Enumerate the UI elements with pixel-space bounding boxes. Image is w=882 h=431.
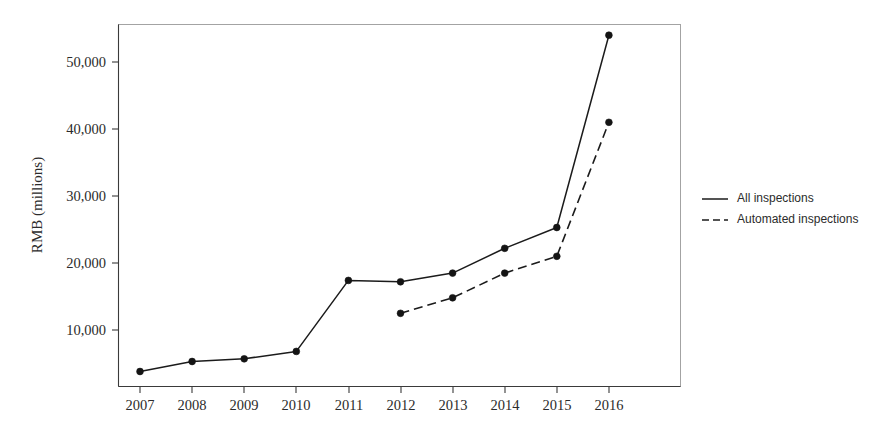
data-point[interactable] xyxy=(501,270,508,277)
y-tick-label-10000: 10,000 xyxy=(66,322,106,338)
x-tick-label-2010: 2010 xyxy=(282,397,311,413)
data-series-layer xyxy=(137,32,613,375)
data-point[interactable] xyxy=(606,119,613,126)
data-point[interactable] xyxy=(241,355,248,362)
x-tick-label-2009: 2009 xyxy=(230,397,259,413)
y-axis-title: RMB (millions) xyxy=(29,157,46,253)
series-line-all-inspections xyxy=(140,35,609,371)
x-tick-label-2014: 2014 xyxy=(491,397,521,413)
y-tick-label-30000: 30,000 xyxy=(66,188,106,204)
plot-area-frame xyxy=(119,25,681,387)
x-tick-label-2012: 2012 xyxy=(387,397,416,413)
data-point[interactable] xyxy=(397,310,404,317)
line-chart: 10,000 20,000 30,000 40,000 50,000 RMB (… xyxy=(0,0,882,431)
chart-figure: 10,000 20,000 30,000 40,000 50,000 RMB (… xyxy=(0,0,882,431)
data-point[interactable] xyxy=(553,224,560,231)
x-tick-label-2013: 2013 xyxy=(439,397,468,413)
y-tick-label-40000: 40,000 xyxy=(66,121,106,137)
legend-label-automated-inspections: Automated inspections xyxy=(737,212,858,226)
data-point[interactable] xyxy=(397,278,404,285)
x-tick-label-2016: 2016 xyxy=(595,397,624,413)
chart-legend: All inspections Automated inspections xyxy=(702,191,858,226)
data-point[interactable] xyxy=(449,270,456,277)
x-tick-label-2007: 2007 xyxy=(126,397,155,413)
y-tick-label-20000: 20,000 xyxy=(66,255,106,271)
data-point[interactable] xyxy=(449,294,456,301)
data-point[interactable] xyxy=(553,253,560,260)
data-point[interactable] xyxy=(137,368,144,375)
legend-label-all-inspections: All inspections xyxy=(737,191,814,205)
data-point[interactable] xyxy=(293,348,300,355)
data-point[interactable] xyxy=(189,358,196,365)
data-point[interactable] xyxy=(501,245,508,252)
x-tick-label-2015: 2015 xyxy=(543,397,572,413)
data-point[interactable] xyxy=(606,32,613,39)
x-tick-label-2008: 2008 xyxy=(178,397,207,413)
x-tick-label-2011: 2011 xyxy=(335,397,363,413)
y-tick-label-50000: 50,000 xyxy=(66,54,106,70)
data-point[interactable] xyxy=(345,277,352,284)
